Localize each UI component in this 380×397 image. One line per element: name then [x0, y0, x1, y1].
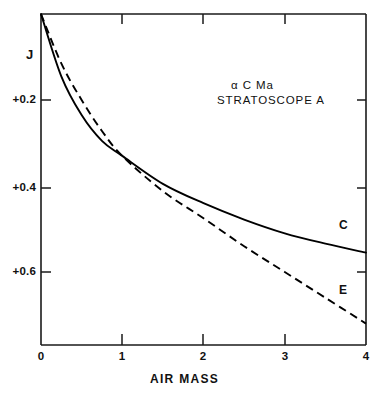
x-axis-ticks-top: [122, 14, 285, 24]
curve-e-dashed: [41, 14, 366, 324]
x-axis-title: AIR MASS: [150, 372, 219, 386]
x-tick-label-3: 3: [275, 350, 295, 362]
annotation-instrument: STRATOSCOPE A: [217, 94, 325, 106]
plot-area: [0, 0, 380, 397]
axis-frame: [41, 14, 366, 345]
y-tick-label-0: +0.2: [2, 93, 36, 105]
y-axis-title: J: [26, 47, 33, 62]
curve-c-solid: [41, 14, 366, 253]
x-tick-label-0: 0: [31, 350, 51, 362]
y-axis-ticks-right: [357, 100, 366, 272]
x-tick-label-2: 2: [193, 350, 213, 362]
y-tick-label-1: +0.4: [2, 181, 36, 193]
curve-label-e: E: [339, 283, 347, 297]
annotation-object: α C Ma: [231, 79, 274, 91]
chart-figure: +0.2 +0.4 +0.6 0 1 2 3 4 J AIR MASS α C …: [0, 0, 380, 397]
y-axis-ticks: [41, 100, 51, 272]
x-axis-ticks: [122, 334, 285, 345]
y-tick-label-2: +0.6: [2, 265, 36, 277]
x-tick-label-1: 1: [112, 350, 132, 362]
x-tick-label-4: 4: [356, 350, 376, 362]
curve-label-c: C: [339, 218, 348, 232]
